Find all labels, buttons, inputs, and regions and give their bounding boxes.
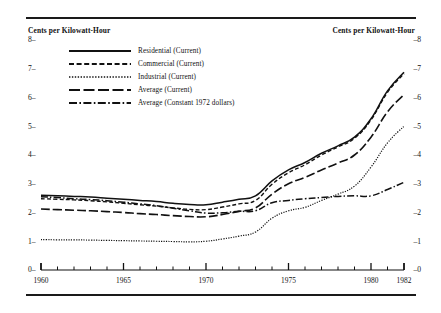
chart-axes (41, 263, 404, 270)
y-axis-tick-label-right: –1 (413, 237, 421, 246)
y-axis-tick-label-left: 3– (28, 179, 36, 188)
y-axis-tick-label-left: 8– (28, 35, 36, 44)
y-axis-tick-label-right: –6 (413, 93, 421, 102)
series-line (41, 95, 404, 217)
x-axis-tick-label: 1970 (199, 276, 214, 285)
y-axis-tick-label-left: 6– (28, 93, 36, 102)
y-axis-tick-label-right: –8 (413, 35, 421, 44)
y-axis-tick-label-left: 5– (28, 122, 36, 131)
x-axis-tick-label: 1982 (397, 276, 412, 285)
y-axis-tick-label-right: –7 (413, 64, 421, 73)
y-axis-tick-label-right: –5 (413, 122, 421, 131)
x-axis-tick-label: 1980 (364, 276, 379, 285)
y-axis-tick-label-left: 0– (28, 265, 36, 274)
x-axis-tick-label: 1965 (116, 276, 131, 285)
y-axis-tick-label-left: 7– (28, 64, 36, 73)
y-axis-tick-label-right: –3 (413, 179, 421, 188)
line-chart-plot (0, 0, 441, 313)
y-axis-tick-label-right: –2 (413, 208, 421, 217)
y-axis-tick-label-right: –0 (413, 265, 421, 274)
y-axis-tick-label-left: 1– (28, 237, 36, 246)
y-axis-tick-label-left: 4– (28, 150, 36, 159)
series-line (41, 72, 404, 205)
x-axis-tick-label: 1960 (34, 276, 49, 285)
y-axis-tick-label-left: 2– (28, 208, 36, 217)
y-axis-tick-label-right: –4 (413, 150, 421, 159)
series-line (41, 126, 404, 242)
chart-series (41, 72, 404, 242)
x-axis-tick-label: 1975 (281, 276, 296, 285)
